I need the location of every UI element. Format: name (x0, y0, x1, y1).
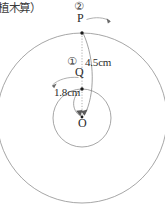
outer-radius-arc (84, 34, 93, 115)
point-q-dot (80, 87, 83, 90)
point-p-dot (80, 31, 83, 34)
outer-radius-label: 4.5cm (85, 57, 111, 68)
center-point-label: O (78, 117, 87, 129)
caption-label: 植木算） (0, 3, 40, 15)
inner-radius-label: 1.8cm (54, 87, 80, 98)
point-p-label: P (77, 12, 84, 24)
outer-direction-arc (87, 18, 111, 21)
point-q-label: Q (75, 66, 84, 78)
outer-direction-arrowhead (107, 18, 111, 23)
figure-canvas: 植木算） ② P ① 4.5cm Q 1.8cm O (0, 0, 165, 218)
geometry-diagram (0, 0, 165, 218)
